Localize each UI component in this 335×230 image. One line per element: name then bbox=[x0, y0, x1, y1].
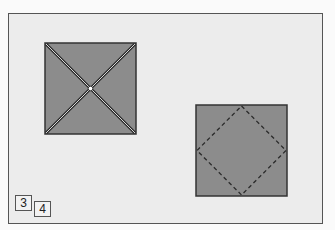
origami-diagram bbox=[0, 0, 335, 230]
figure-step-3 bbox=[45, 43, 136, 134]
step-label-3: 3 bbox=[15, 195, 32, 211]
center-point-icon bbox=[88, 86, 93, 91]
step-label-4: 4 bbox=[34, 201, 51, 217]
figure-step-4 bbox=[196, 105, 287, 196]
